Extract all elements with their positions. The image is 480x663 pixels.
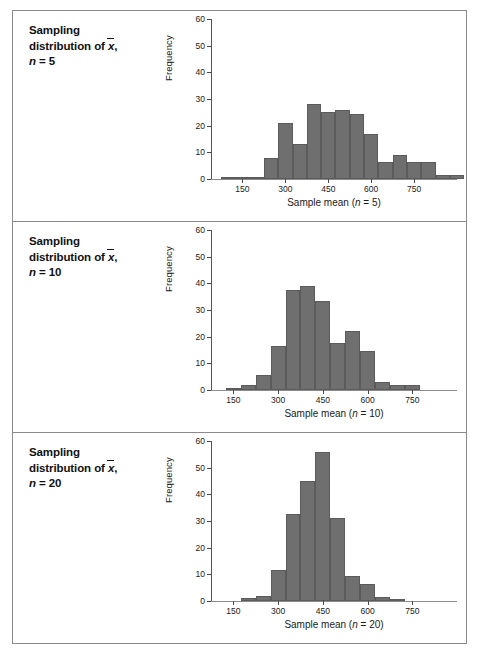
y-tick-label: 60 <box>196 225 205 235</box>
y-tick-label: 50 <box>196 252 205 262</box>
x-tick-label: 750 <box>405 606 419 616</box>
histogram-bar <box>256 375 271 390</box>
x-tick-label: 300 <box>271 395 285 405</box>
x-tick-mark <box>323 390 324 394</box>
y-axis-label: Frequency <box>163 246 174 292</box>
histogram-bar <box>330 518 345 601</box>
panel-n20: Sampling distribution of x, n = 20 Frequ… <box>13 433 466 645</box>
histogram-bar <box>278 123 292 179</box>
histogram-bar <box>286 514 301 601</box>
y-tick-label: 40 <box>196 489 205 499</box>
panel-title-n-value: = 10 <box>36 266 61 278</box>
x-tick-label: 150 <box>226 606 240 616</box>
histogram-bar <box>293 144 307 179</box>
panel-title-line2-prefix: distribution of <box>29 251 108 263</box>
x-tick-mark <box>233 601 234 605</box>
x-tick-mark <box>412 601 413 605</box>
panel-title-line2-prefix: distribution of <box>29 40 108 52</box>
y-axis-ticks: 0102030405060 <box>179 441 211 601</box>
panel-title-line2-prefix: distribution of <box>29 462 108 474</box>
y-tick-label: 30 <box>196 305 205 315</box>
histogram-n20: Frequency 0102030405060 150300450600750 … <box>165 441 457 637</box>
histogram-bar <box>421 162 435 179</box>
y-tick-label: 30 <box>196 516 205 526</box>
panel-title-line2-suffix: , <box>114 462 117 474</box>
y-tick-label: 40 <box>196 278 205 288</box>
histogram-bar <box>345 576 360 601</box>
panel-title-line2-suffix: , <box>114 251 117 263</box>
panel-n10: Sampling distribution of x, n = 10 Frequ… <box>13 222 466 433</box>
histogram-bar <box>300 481 315 601</box>
x-tick-mark <box>368 390 369 394</box>
panel-title-line2-suffix: , <box>114 40 117 52</box>
y-tick-label: 20 <box>196 332 205 342</box>
panel-title-n-var: n <box>29 477 36 489</box>
x-axis-label: Sample mean (n = 10) <box>211 408 457 419</box>
panel-title-n-value: = 20 <box>36 477 61 489</box>
y-tick-label: 30 <box>196 94 205 104</box>
x-tick-mark <box>285 179 286 183</box>
x-tick-mark <box>278 390 279 394</box>
x-axis-label: Sample mean (n = 20) <box>211 619 457 630</box>
histogram-bar <box>335 110 349 179</box>
y-tick-label: 50 <box>196 41 205 51</box>
histogram-bar <box>321 112 335 179</box>
histogram-bar <box>378 162 392 179</box>
x-tick-mark <box>323 601 324 605</box>
x-label-suffix: = 10) <box>358 408 384 419</box>
panel-title-line1: Sampling <box>29 446 80 458</box>
histogram-bar <box>393 155 407 179</box>
x-tick-mark <box>242 179 243 183</box>
histogram-bar <box>345 331 360 390</box>
x-tick-label: 750 <box>407 184 421 194</box>
x-label-prefix: Sample mean ( <box>284 619 352 630</box>
x-tick-label: 300 <box>271 606 285 616</box>
histogram-bar <box>315 301 330 390</box>
x-tick-label: 600 <box>360 395 374 405</box>
panel-title-n20: Sampling distribution of x, n = 20 <box>29 445 179 492</box>
y-axis-ticks: 0102030405060 <box>179 19 211 179</box>
y-tick-label: 10 <box>196 569 205 579</box>
y-tick-label: 0 <box>200 385 205 395</box>
histogram-bar <box>407 162 421 179</box>
bar-series <box>211 19 457 179</box>
x-tick-label: 600 <box>360 606 374 616</box>
y-tick-label: 60 <box>196 436 205 446</box>
x-tick-label: 450 <box>316 395 330 405</box>
histogram-bar <box>300 286 315 390</box>
x-bar-symbol: x <box>108 461 114 477</box>
histogram-n5: Frequency 0102030405060 150300450600750 … <box>165 19 457 215</box>
histogram-bar <box>330 343 345 390</box>
x-tick-label: 450 <box>321 184 335 194</box>
panel-n5: Sampling distribution of x, n = 5 Freque… <box>13 11 466 222</box>
x-tick-label: 600 <box>364 184 378 194</box>
x-tick-label: 450 <box>316 606 330 616</box>
y-tick-label: 20 <box>196 543 205 553</box>
y-tick-label: 60 <box>196 14 205 24</box>
histogram-bar <box>315 452 330 601</box>
histogram-bar <box>264 158 278 179</box>
x-tick-mark <box>233 390 234 394</box>
panel-title-n5: Sampling distribution of x, n = 5 <box>29 23 179 70</box>
panel-title-n-var: n <box>29 266 36 278</box>
x-tick-label: 750 <box>405 395 419 405</box>
y-tick-label: 20 <box>196 121 205 131</box>
x-tick-mark <box>328 179 329 183</box>
histogram-bar <box>360 351 375 390</box>
x-tick-mark <box>412 390 413 394</box>
x-bar-symbol: x <box>108 39 114 55</box>
x-bar-symbol: x <box>108 250 114 266</box>
x-label-suffix: = 20) <box>358 619 384 630</box>
y-tick-label: 0 <box>200 596 205 606</box>
x-label-prefix: Sample mean ( <box>287 197 355 208</box>
y-axis-label: Frequency <box>163 457 174 503</box>
y-tick-label: 40 <box>196 67 205 77</box>
y-axis-label: Frequency <box>163 35 174 81</box>
x-label-prefix: Sample mean ( <box>284 408 352 419</box>
y-tick-label: 0 <box>200 174 205 184</box>
x-axis-label: Sample mean (n = 5) <box>211 197 457 208</box>
y-tick-label: 10 <box>196 147 205 157</box>
x-tick-label: 150 <box>235 184 249 194</box>
y-tick-label: 10 <box>196 358 205 368</box>
histogram-bar <box>271 346 286 390</box>
